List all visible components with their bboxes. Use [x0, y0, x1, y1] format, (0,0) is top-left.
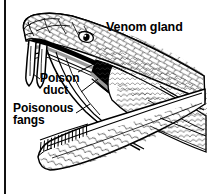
leader-fangs — [76, 104, 90, 113]
label-venom-gland: Venom gland — [106, 21, 183, 34]
label-poisonous-fangs-line2: fangs — [13, 114, 45, 127]
label-poison-duct-line2: duct — [43, 84, 68, 97]
leader-duct-2 — [81, 79, 98, 92]
snake-anatomy-figure: Venom gland Poison duct Poisonous fangs — [0, 0, 207, 194]
